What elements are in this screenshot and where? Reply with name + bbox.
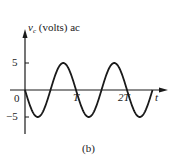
x-tick-label-2T: 2T [118,92,130,103]
y-axis-arrow-icon [23,29,28,38]
y-tick-label-5: 5 [12,57,18,68]
figure-caption: (b) [82,143,95,154]
x-tick-label-0: 0 [14,93,20,104]
y-tick-label-minus5: −5 [6,111,18,122]
x-tick-label-T: T [73,92,79,103]
x-axis-arrow-icon [159,88,168,93]
x-axis-label-t: t [155,92,158,103]
y-axis-title: vc (volts) ac [28,22,80,35]
waveform-chart [0,0,180,160]
